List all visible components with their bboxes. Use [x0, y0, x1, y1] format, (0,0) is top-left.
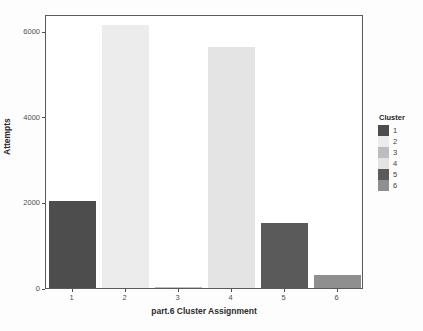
legend-item-5[interactable]: 5 — [378, 169, 422, 180]
x-axis: 123456 — [45, 289, 363, 307]
y-tick-label: 6000 — [23, 27, 40, 37]
legend-item-3[interactable]: 3 — [378, 147, 422, 158]
x-tick-label: 2 — [122, 293, 126, 302]
x-tick-label: 1 — [69, 293, 73, 302]
legend-label: 5 — [393, 170, 397, 179]
bar-4 — [208, 47, 256, 288]
x-tick-mark — [231, 289, 232, 292]
bar-3 — [155, 287, 203, 288]
x-tick-mark — [72, 289, 73, 292]
x-axis-title: part.6 Cluster Assignment — [45, 306, 363, 316]
bar-5 — [261, 223, 309, 288]
x-tick-mark — [125, 289, 126, 292]
legend-swatch-3 — [378, 147, 389, 158]
plot-panel — [45, 15, 363, 289]
y-tick-label: 0 — [36, 284, 40, 294]
plot-area — [46, 16, 362, 288]
legend-swatch-2 — [378, 136, 389, 147]
x-tick-label: 3 — [175, 293, 179, 302]
y-tick-label: 2000 — [23, 198, 40, 208]
x-tick-mark — [337, 289, 338, 292]
x-tick-mark — [178, 289, 179, 292]
legend-label: 6 — [393, 181, 397, 190]
x-tick-label: 5 — [281, 293, 285, 302]
x-tick-mark — [284, 289, 285, 292]
legend-item-6[interactable]: 6 — [378, 180, 422, 191]
legend-item-2[interactable]: 2 — [378, 136, 422, 147]
clipped-title-strip — [0, 0, 423, 8]
legend-swatch-1 — [378, 125, 389, 136]
chart-root: Attempts 0200040006000 123456 part.6 Clu… — [0, 0, 423, 331]
legend-items: 123456 — [378, 125, 422, 191]
bar-2 — [102, 25, 150, 288]
legend: Cluster 123456 — [378, 113, 422, 191]
y-axis-title: Attempts — [2, 118, 12, 155]
legend-label: 3 — [393, 148, 397, 157]
legend-item-1[interactable]: 1 — [378, 125, 422, 136]
y-tick-label: 4000 — [23, 113, 40, 123]
bar-6 — [314, 275, 362, 288]
legend-item-4[interactable]: 4 — [378, 158, 422, 169]
y-axis: Attempts 0200040006000 — [0, 15, 45, 289]
legend-label: 4 — [393, 159, 397, 168]
legend-swatch-4 — [378, 158, 389, 169]
bar-1 — [49, 201, 97, 288]
legend-title: Cluster — [379, 113, 422, 122]
legend-swatch-5 — [378, 169, 389, 180]
legend-swatch-6 — [378, 180, 389, 191]
x-tick-label: 6 — [334, 293, 338, 302]
legend-label: 1 — [393, 126, 397, 135]
legend-label: 2 — [393, 137, 397, 146]
x-tick-label: 4 — [228, 293, 232, 302]
